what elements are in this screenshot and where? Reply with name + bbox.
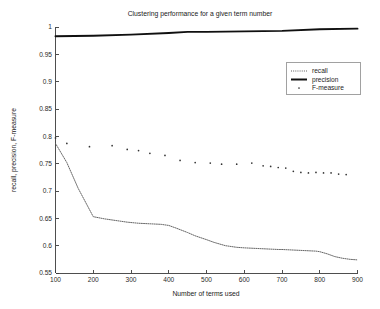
x-tick-label: 500: [201, 276, 212, 283]
fmeasure-data-point: [345, 174, 347, 176]
x-tick-label: 100: [50, 276, 61, 283]
x-axis-ticks: 100200300400500600700800900: [50, 270, 363, 283]
legend-swatch-fmeasure-icon: [298, 87, 300, 89]
y-axis-label: recall, precision, F-measure: [10, 108, 18, 192]
chart-legend: recall precision F-measure: [286, 62, 360, 94]
x-tick-label: 700: [276, 276, 287, 283]
y-tick-label: 0.6: [43, 242, 52, 249]
fmeasure-data-point: [194, 162, 196, 164]
fmeasure-data-point: [251, 162, 253, 164]
legend-label-precision: precision: [312, 76, 339, 84]
y-tick-label: 0.9: [43, 78, 52, 85]
chart-title: Clustering performance for a given term …: [128, 10, 273, 18]
fmeasure-data-point: [315, 172, 317, 174]
series-precision-line: [56, 29, 358, 37]
fmeasure-data-point: [300, 172, 302, 174]
y-tick-label: 0.65: [39, 215, 52, 222]
y-tick-label: 0.7: [43, 187, 52, 194]
fmeasure-data-point: [308, 172, 310, 174]
fmeasure-data-point: [338, 173, 340, 175]
x-tick-label: 600: [239, 276, 250, 283]
fmeasure-data-point: [55, 137, 57, 139]
fmeasure-data-point: [209, 162, 211, 164]
y-tick-label: 0.85: [39, 105, 52, 112]
x-tick-label: 900: [352, 276, 363, 283]
fmeasure-data-point: [285, 167, 287, 169]
fmeasure-data-point: [66, 143, 68, 145]
x-tick-label: 200: [88, 276, 99, 283]
fmeasure-data-point: [270, 166, 272, 168]
series-fmeasure-markers: [55, 137, 347, 175]
x-axis-label: Number of terms used: [172, 290, 239, 297]
clustering-performance-chart: Clustering performance for a given term …: [0, 0, 380, 309]
y-tick-label: 0.75: [39, 160, 52, 167]
x-tick-label: 300: [125, 276, 136, 283]
fmeasure-data-point: [111, 145, 113, 147]
fmeasure-data-point: [138, 150, 140, 152]
fmeasure-data-point: [221, 163, 223, 165]
fmeasure-data-point: [149, 152, 151, 154]
fmeasure-data-point: [89, 146, 91, 148]
legend-label-recall: recall: [312, 67, 328, 74]
legend-label-fmeasure: F-measure: [312, 84, 344, 91]
y-tick-label: 1: [48, 23, 52, 30]
y-tick-label: 0.8: [43, 133, 52, 140]
x-tick-label: 800: [314, 276, 325, 283]
fmeasure-data-point: [277, 167, 279, 169]
fmeasure-data-point: [236, 163, 238, 165]
fmeasure-data-point: [330, 172, 332, 174]
fmeasure-data-point: [323, 172, 325, 174]
fmeasure-data-point: [164, 155, 166, 157]
fmeasure-data-point: [179, 160, 181, 162]
fmeasure-data-point: [262, 165, 264, 167]
y-tick-label: 0.95: [39, 51, 52, 58]
figure-container: Clustering performance for a given term …: [0, 0, 380, 309]
x-tick-label: 400: [163, 276, 174, 283]
fmeasure-data-point: [126, 149, 128, 151]
fmeasure-data-point: [292, 170, 294, 172]
series-recall-line: [56, 143, 358, 259]
